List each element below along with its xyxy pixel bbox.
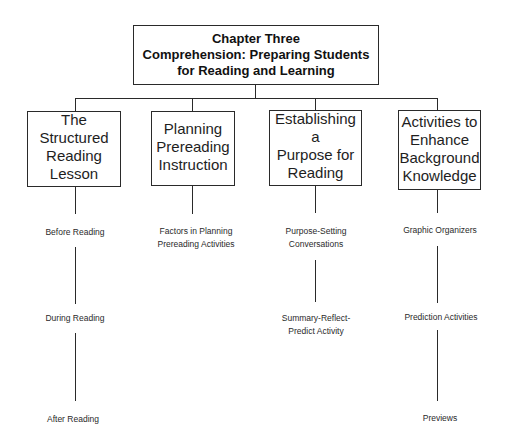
leaf-text: Previews [375, 412, 505, 425]
leaf-text: Before Reading [10, 226, 140, 239]
col1-connector-2 [75, 247, 76, 304]
leaf-before-reading: Before Reading [10, 226, 140, 239]
root-title-line-2: Comprehension: Preparing Students [143, 47, 370, 63]
leaf-summary-reflect-predict: Summary-Reflect- Predict Activity [251, 312, 381, 337]
col2-connector-1 [192, 185, 193, 214]
leaf-graphic-organizers: Graphic Organizers [375, 224, 505, 237]
category-planning-prereading-instruction: Planning Prereading Instruction [151, 111, 235, 186]
leaf-text: Prediction Activities [376, 311, 506, 324]
drop-connector-4 [437, 98, 438, 110]
leaf-text-line-1: Summary-Reflect- [251, 312, 381, 325]
leaf-text-line-2: Predict Activity [251, 325, 381, 338]
category-2-line-3: Instruction [158, 156, 227, 174]
leaf-after-reading: After Reading [8, 413, 138, 426]
category-3-line-1: Establishing a [272, 110, 359, 146]
drop-connector-1 [75, 98, 76, 111]
leaf-during-reading: During Reading [10, 312, 140, 325]
category-structured-reading-lesson: The Structured Reading Lesson [27, 111, 121, 187]
branch-bus-line [75, 98, 437, 99]
col3-connector-1 [315, 185, 316, 213]
drop-connector-3 [315, 98, 316, 110]
category-3-line-2: Purpose for [277, 146, 355, 164]
leaf-text: After Reading [8, 413, 138, 426]
drop-connector-2 [192, 98, 193, 111]
col4-connector-3 [437, 330, 438, 401]
leaf-text-line-1: Purpose-Setting [251, 225, 381, 238]
leaf-text-line-2: Conversations [251, 238, 381, 251]
col1-connector-3 [75, 333, 76, 401]
leaf-purpose-setting-conversations: Purpose-Setting Conversations [251, 225, 381, 250]
leaf-text-line-2: Prereading Activities [131, 238, 261, 251]
category-activities-background-knowledge: Activities to Enhance Background Knowled… [398, 110, 481, 190]
root-node-chapter-three: Chapter Three Comprehension: Preparing S… [133, 25, 379, 85]
leaf-text-line-1: Factors in Planning [131, 225, 261, 238]
category-4-line-4: Knowledge [402, 167, 476, 185]
category-2-line-1: Planning [164, 120, 222, 138]
category-establishing-purpose: Establishing a Purpose for Reading [269, 110, 362, 186]
category-3-line-3: Reading [288, 164, 344, 182]
leaf-factors-in-planning: Factors in Planning Prereading Activitie… [131, 225, 261, 250]
col3-connector-2 [315, 260, 316, 302]
category-4-line-1: Activities to [402, 113, 478, 131]
category-1-line-1: The Structured [30, 111, 118, 147]
category-4-line-3: Background [399, 149, 479, 167]
category-1-line-3: Lesson [50, 165, 98, 183]
category-2-line-2: Prereading [156, 138, 229, 156]
leaf-previews: Previews [375, 412, 505, 425]
root-title-line-3: for Reading and Learning [177, 63, 334, 79]
leaf-text: During Reading [10, 312, 140, 325]
root-title-line-1: Chapter Three [212, 31, 300, 47]
category-1-line-2: Reading [46, 147, 102, 165]
leaf-prediction-activities: Prediction Activities [376, 311, 506, 324]
col4-connector-1 [437, 189, 438, 213]
category-4-line-2: Enhance [410, 131, 469, 149]
col4-connector-2 [437, 246, 438, 303]
col1-connector-1 [75, 186, 76, 214]
leaf-text: Graphic Organizers [375, 224, 505, 237]
root-connector [255, 84, 256, 99]
